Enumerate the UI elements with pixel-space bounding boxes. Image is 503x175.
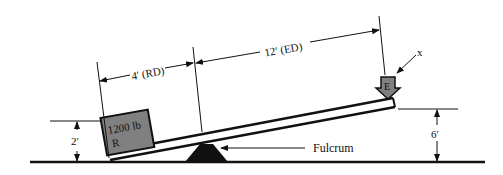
extension-line-fulcrum <box>193 47 202 132</box>
fulcrum-label: Fulcrum <box>313 141 354 155</box>
rd-label: 4′ (RD) <box>130 64 165 83</box>
rd-dimension-right <box>165 63 193 68</box>
fulcrum-triangle <box>185 144 228 162</box>
rd-dimension-left <box>100 75 130 81</box>
ed-dimension-left <box>196 52 260 63</box>
ed-dimension-right <box>310 30 379 42</box>
x-pointer-arrow <box>397 55 416 73</box>
ed-label: 12′ (ED) <box>263 40 303 59</box>
extension-line-left <box>97 62 109 158</box>
x-label: x <box>417 46 423 58</box>
lever-diagram: 1200 lb R 4′ (RD) 12′ (ED) E x Fulcrum 2… <box>0 0 503 175</box>
right-height-label: 6′ <box>431 128 439 140</box>
extension-line-right <box>379 16 385 75</box>
effort-symbol-label: E <box>384 81 390 92</box>
left-height-label: 2′ <box>71 135 79 147</box>
